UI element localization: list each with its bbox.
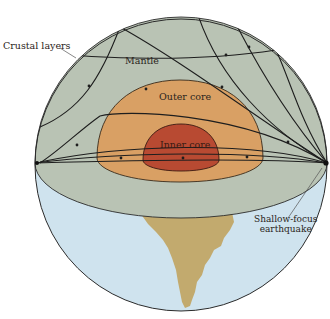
mantle-label: Mantle <box>125 56 159 67</box>
inner-core-label: Inner core <box>160 140 210 151</box>
earthquake-label-line1: Shallow-focus <box>254 214 317 224</box>
earthquake-label-line2: earthquake <box>254 224 317 234</box>
shallow-focus-earthquake-label: Shallow-focus earthquake <box>254 214 317 235</box>
outer-core-label: Outer core <box>159 92 211 103</box>
antipode-marker <box>35 161 39 165</box>
crustal-layers-label: Crustal layers <box>3 41 70 52</box>
earthquake-focus-marker <box>323 160 328 165</box>
